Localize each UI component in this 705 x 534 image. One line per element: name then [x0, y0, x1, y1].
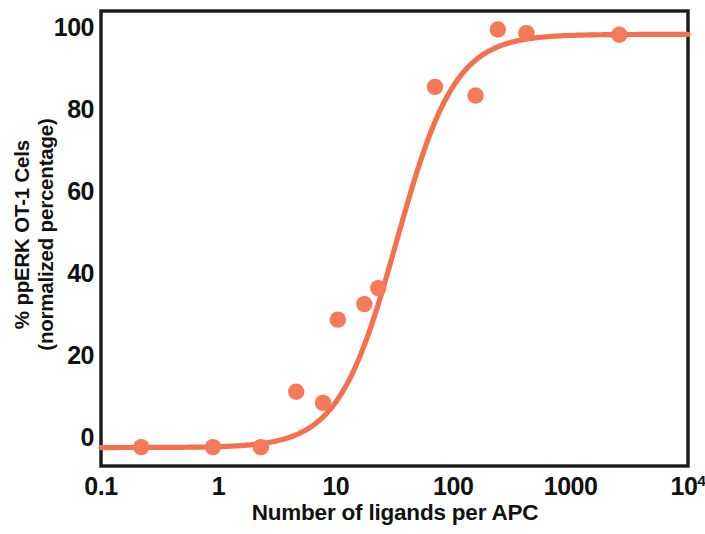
data-point: [330, 311, 346, 327]
data-point: [611, 27, 627, 43]
data-point: [253, 439, 269, 455]
data-point-group: [133, 21, 628, 455]
data-point: [518, 25, 534, 41]
data-point: [205, 439, 221, 455]
axes-frame-group: [101, 11, 688, 466]
fit-curve-group: [101, 34, 688, 447]
data-point: [133, 439, 149, 455]
data-point: [356, 296, 372, 312]
sigmoid-fit-curve: [101, 34, 688, 447]
data-point: [467, 87, 483, 103]
data-point: [315, 395, 331, 411]
data-point: [288, 384, 304, 400]
data-point: [490, 21, 506, 37]
data-point: [427, 79, 443, 95]
axes-frame: [101, 11, 688, 466]
data-point: [370, 280, 386, 296]
